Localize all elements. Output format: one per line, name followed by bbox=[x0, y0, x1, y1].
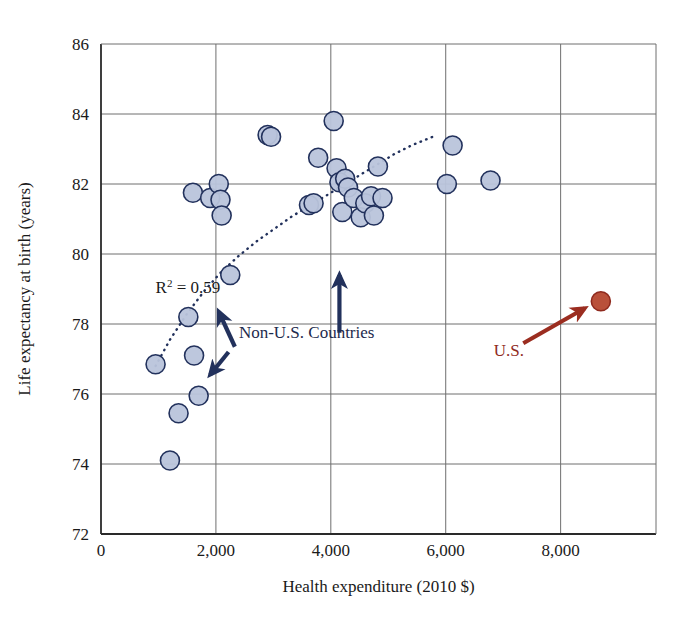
y-tick-label: 82 bbox=[72, 175, 89, 194]
r-squared-annotation: R2 = 0.59 bbox=[156, 277, 221, 297]
scatter-plot-figure: 02,0004,0006,0008,000 7274767880828486 R… bbox=[0, 0, 677, 623]
x-tick-label: 0 bbox=[97, 541, 106, 560]
data-point-marker bbox=[160, 451, 179, 470]
data-point-marker bbox=[304, 194, 323, 213]
y-tick-label: 78 bbox=[72, 315, 89, 334]
data-point-marker bbox=[185, 346, 204, 365]
data-point-marker bbox=[481, 171, 500, 190]
us-label: U.S. bbox=[494, 341, 524, 360]
data-point-marker bbox=[437, 175, 456, 194]
data-point-marker bbox=[169, 404, 188, 423]
data-point-marker bbox=[364, 206, 383, 225]
data-point-marker bbox=[368, 157, 387, 176]
data-point-marker bbox=[309, 148, 328, 167]
x-tick-label: 2,000 bbox=[197, 541, 235, 560]
data-point-marker bbox=[324, 112, 343, 131]
y-axis-title: Life expectancy at birth (years) bbox=[15, 182, 34, 395]
data-point-marker bbox=[591, 292, 610, 311]
data-point-marker bbox=[221, 266, 240, 285]
x-tick-label: 4,000 bbox=[312, 541, 350, 560]
data-point-marker bbox=[189, 386, 208, 405]
chart-canvas: 02,0004,0006,0008,000 7274767880828486 R… bbox=[0, 0, 677, 623]
y-tick-label: 84 bbox=[72, 105, 90, 124]
x-axis-title: Health expenditure (2010 $) bbox=[282, 577, 474, 596]
data-point-marker bbox=[443, 136, 462, 155]
data-point-marker bbox=[146, 355, 165, 374]
non-us-countries-label: Non-U.S. Countries bbox=[239, 323, 375, 342]
y-tick-label: 74 bbox=[72, 455, 90, 474]
data-point-marker bbox=[179, 308, 198, 327]
y-tick-label: 76 bbox=[72, 385, 89, 404]
series-us bbox=[591, 292, 610, 311]
y-tick-label: 80 bbox=[72, 245, 89, 264]
x-tick-label: 8,000 bbox=[542, 541, 580, 560]
y-tick-label: 86 bbox=[72, 35, 89, 54]
data-point-marker bbox=[262, 127, 281, 146]
data-point-marker bbox=[183, 183, 202, 202]
data-point-marker bbox=[373, 189, 392, 208]
x-tick-label: 6,000 bbox=[427, 541, 465, 560]
y-tick-label: 72 bbox=[72, 525, 89, 544]
data-point-marker bbox=[212, 206, 231, 225]
